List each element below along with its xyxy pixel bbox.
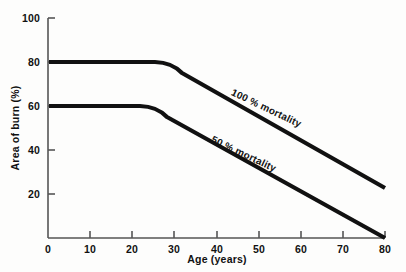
x-tick-label-30: 30 bbox=[168, 243, 180, 255]
y-axis-title: Area of burn (%) bbox=[9, 86, 21, 171]
burn-mortality-chart: 100 80 60 40 20 0 10 20 30 40 50 60 70 8… bbox=[0, 0, 406, 272]
x-tick-label-70: 70 bbox=[337, 243, 349, 255]
x-tick-label-0: 0 bbox=[45, 243, 51, 255]
x-tick-label-80: 80 bbox=[379, 243, 391, 255]
y-tick-label-100: 100 bbox=[6, 12, 40, 24]
x-tick-label-10: 10 bbox=[84, 243, 96, 255]
plot-area bbox=[0, 0, 406, 272]
curve-50-percent-mortality bbox=[49, 106, 385, 238]
x-tick-label-20: 20 bbox=[126, 243, 138, 255]
y-tick-label-20: 20 bbox=[6, 188, 40, 200]
y-tick-label-80: 80 bbox=[6, 56, 40, 68]
x-tick-label-60: 60 bbox=[295, 243, 307, 255]
x-axis-ticks bbox=[90, 231, 385, 238]
x-tick-label-50: 50 bbox=[253, 243, 265, 255]
curve-100-percent-mortality bbox=[49, 62, 385, 188]
axis-lines bbox=[48, 18, 385, 238]
x-axis-title: Age (years) bbox=[187, 253, 246, 265]
